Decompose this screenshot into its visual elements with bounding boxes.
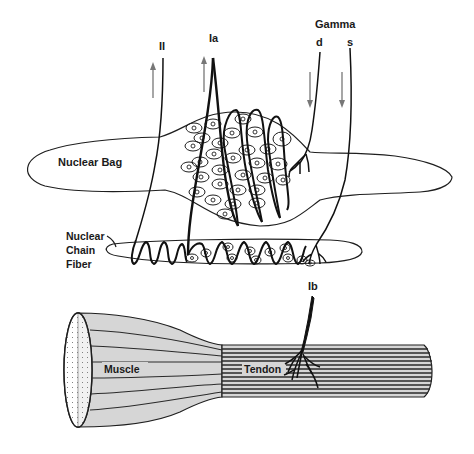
tendon-label: Tendon: [244, 363, 281, 375]
gamma-s-label: s: [347, 36, 353, 48]
afferent-Ib-label: Ib: [308, 280, 318, 292]
afferent-II-label: II: [159, 40, 165, 52]
gamma-d-label: d: [316, 36, 323, 48]
gamma-label: Gamma: [315, 18, 356, 30]
muscle-tendon: Muscle Tendon: [64, 313, 432, 427]
afferent-II: II: [132, 40, 187, 264]
afferent-Ia-label: Ia: [209, 32, 219, 44]
chain-label-line1: Nuclear: [66, 230, 105, 242]
afferent-Ia: Ia: [188, 32, 306, 264]
chain-label-line3: Fiber: [66, 258, 92, 270]
chain-label-line2: Chain: [66, 244, 95, 256]
muscle-spindle-diagram: Nuclear Bag: [0, 0, 474, 454]
nuclear-bag-label: Nuclear Bag: [58, 156, 122, 168]
nuclear-bag-fiber: Nuclear Bag: [28, 112, 452, 226]
muscle-label: Muscle: [104, 363, 140, 375]
